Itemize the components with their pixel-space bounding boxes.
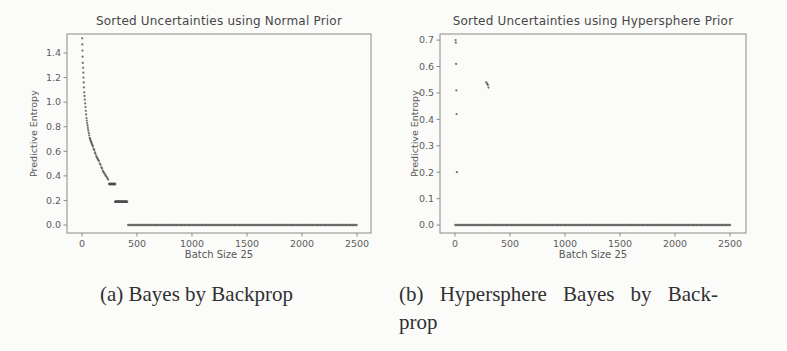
y-tick-label: 0.0 <box>419 219 434 230</box>
y-tick-label: 0.4 <box>419 114 434 125</box>
data-point <box>83 95 85 97</box>
data-point <box>126 200 129 203</box>
data-point <box>114 183 117 186</box>
x-tick-label: 1000 <box>553 238 577 249</box>
plot-area-hypersphere-prior: 050010001500200025000.00.10.20.30.40.50.… <box>393 0 787 270</box>
axes-frame <box>67 34 371 233</box>
data-point <box>82 67 84 69</box>
x-tick-label: 500 <box>501 238 519 249</box>
captions-row: (a) Bayes by Backprop (b) Hypersphere Ba… <box>0 270 787 336</box>
data-point <box>355 224 358 227</box>
data-point <box>98 160 100 162</box>
x-tick-label: 1500 <box>608 238 632 249</box>
data-point <box>83 91 85 93</box>
data-point <box>88 132 90 134</box>
y-tick-label: 0.4 <box>46 170 61 181</box>
data-point <box>82 76 84 78</box>
data-point <box>84 106 86 108</box>
subplot-normal-prior: Sorted Uncertainties using Normal Prior … <box>0 0 393 270</box>
y-tick-label: 0.0 <box>46 219 61 230</box>
data-point <box>81 43 83 45</box>
caption-subfigure-b-line1: (b) Hypersphere Bayes by Back- <box>399 282 718 306</box>
caption-subfigure-b-line2: prop <box>399 310 438 334</box>
x-tick-label: 0 <box>79 238 85 249</box>
x-tick-label: 1000 <box>180 238 204 249</box>
data-point <box>107 178 109 180</box>
data-point <box>455 42 457 44</box>
y-tick-label: 0.2 <box>419 167 434 178</box>
data-point <box>455 63 457 65</box>
data-point <box>88 134 90 136</box>
data-point <box>83 86 85 88</box>
x-tick-label: 2000 <box>290 238 314 249</box>
x-tick-label: 1500 <box>235 238 259 249</box>
x-tick-label: 2000 <box>663 238 687 249</box>
data-point <box>87 129 89 131</box>
data-point <box>93 149 95 151</box>
data-point <box>85 110 87 112</box>
plot-area-normal-prior: 050010001500200025000.00.20.40.60.81.01.… <box>0 0 393 270</box>
y-tick-label: 0.7 <box>419 34 434 45</box>
y-tick-label: 0.3 <box>419 140 434 151</box>
data-point <box>455 113 457 115</box>
data-point <box>81 37 83 39</box>
data-point <box>84 102 86 104</box>
x-tick-label: 2500 <box>718 238 742 249</box>
y-tick-label: 1.2 <box>46 72 61 83</box>
subplot-hypersphere-prior: Sorted Uncertainties using Hypersphere P… <box>393 0 787 270</box>
charts-row: Sorted Uncertainties using Normal Prior … <box>0 0 787 270</box>
data-point <box>82 62 84 64</box>
paper-figure: Sorted Uncertainties using Normal Prior … <box>0 0 787 351</box>
data-point <box>84 99 86 101</box>
data-point <box>454 39 456 41</box>
data-point <box>487 86 489 88</box>
y-tick-label: 0.6 <box>46 146 61 157</box>
x-axis-label-normal-prior: Batch Size 25 <box>67 249 371 260</box>
data-point <box>455 89 457 91</box>
caption-subfigure-a: (a) Bayes by Backprop <box>0 270 393 336</box>
data-point <box>85 113 87 115</box>
data-point <box>83 81 85 83</box>
y-tick-label: 0.5 <box>419 87 434 98</box>
data-point <box>85 117 87 119</box>
data-point <box>92 145 94 147</box>
y-tick-label: 1.4 <box>46 47 61 58</box>
y-tick-label: 1.0 <box>46 96 61 107</box>
data-point <box>456 171 458 173</box>
x-tick-label: 0 <box>452 238 458 249</box>
data-point <box>82 72 84 74</box>
caption-subfigure-b: (b) Hypersphere Bayes by Back- prop <box>393 270 787 336</box>
x-axis-label-hypersphere-prior: Batch Size 25 <box>440 249 746 260</box>
y-tick-label: 0.6 <box>419 61 434 72</box>
y-tick-label: 0.8 <box>46 121 61 132</box>
data-point <box>729 224 732 227</box>
y-tick-label: 0.2 <box>46 195 61 206</box>
data-point <box>86 124 88 126</box>
data-point <box>101 167 103 169</box>
x-tick-label: 2500 <box>345 238 369 249</box>
data-point <box>99 164 101 166</box>
data-point <box>86 119 88 121</box>
data-point <box>87 127 89 129</box>
data-point <box>487 84 489 86</box>
axes-frame <box>440 34 746 233</box>
data-point <box>81 56 83 58</box>
y-tick-label: 0.1 <box>419 193 434 204</box>
data-point <box>94 153 96 155</box>
x-tick-label: 500 <box>128 238 146 249</box>
data-point <box>81 49 83 51</box>
data-point <box>86 122 88 124</box>
